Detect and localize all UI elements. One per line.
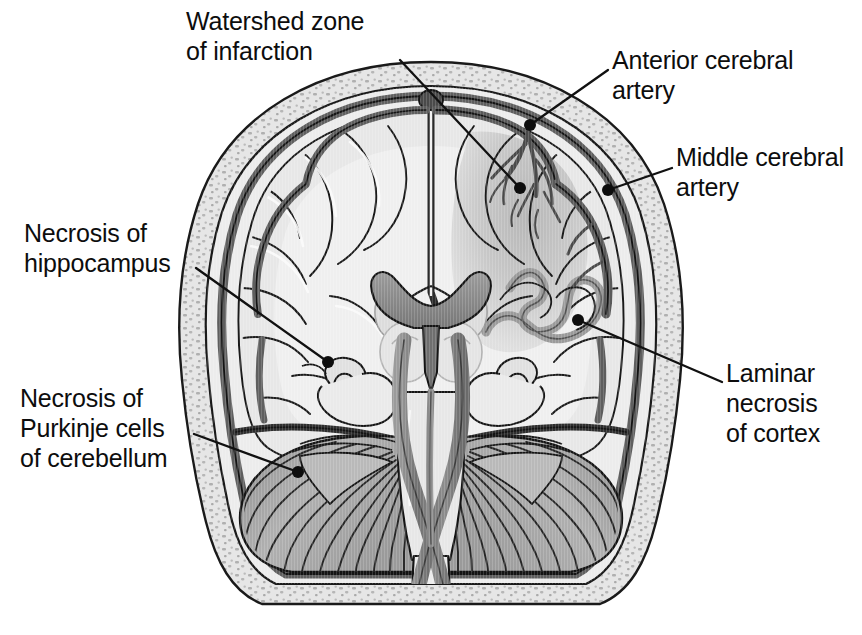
dot-necrosis-of-hippocampus bbox=[322, 356, 334, 368]
dot-laminar-necrosis-of-cortex bbox=[572, 314, 584, 326]
dot-necrosis-of-purkinje-cells bbox=[292, 466, 304, 478]
dot-watershed bbox=[514, 182, 526, 194]
label-anterior-cerebral-artery: Anterior cerebral artery bbox=[612, 45, 793, 105]
label-middle-cerebral-artery: Middle cerebral artery bbox=[676, 142, 844, 202]
label-necrosis-of-purkinje-cells: Necrosis of Purkinje cells of cerebellum bbox=[20, 383, 167, 473]
dot-middle-cerebral-artery bbox=[602, 184, 614, 196]
label-necrosis-of-hippocampus: Necrosis of hippocampus bbox=[24, 218, 171, 278]
dot-anterior-cerebral-artery bbox=[524, 119, 536, 131]
label-watershed-zone-of-infarction: Watershed zone of infarction bbox=[186, 6, 364, 66]
label-laminar-necrosis-of-cortex: Laminar necrosis of cortex bbox=[726, 358, 820, 448]
